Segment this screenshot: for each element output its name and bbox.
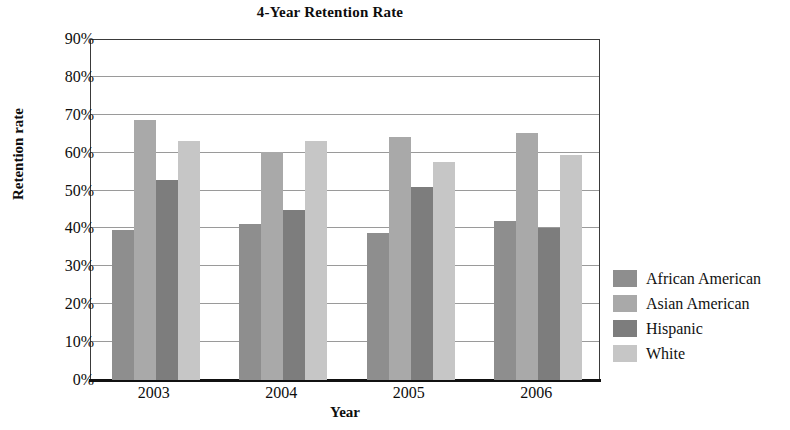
bar bbox=[178, 141, 200, 380]
bar bbox=[433, 162, 455, 380]
legend-item: African American bbox=[613, 266, 788, 291]
legend-swatch-icon bbox=[613, 320, 637, 337]
x-tick-label: 2004 bbox=[236, 384, 326, 402]
y-tick-label: 30% bbox=[24, 258, 94, 274]
bar bbox=[283, 210, 305, 380]
x-axis-title: Year bbox=[90, 404, 600, 421]
bar bbox=[156, 180, 178, 380]
chart-legend: African AmericanAsian AmericanHispanicWh… bbox=[613, 266, 788, 366]
legend-label: Asian American bbox=[646, 295, 750, 313]
bar bbox=[516, 133, 538, 380]
legend-label: African American bbox=[646, 270, 761, 288]
y-tick-label: 70% bbox=[24, 107, 94, 123]
bar bbox=[261, 152, 283, 380]
bar bbox=[389, 137, 411, 380]
bar bbox=[411, 187, 433, 380]
retention-rate-chart: 4-Year Retention Rate Retention rate 0%1… bbox=[0, 0, 790, 430]
legend-item: Hispanic bbox=[613, 316, 788, 341]
legend-item: White bbox=[613, 341, 788, 366]
chart-title: 4-Year Retention Rate bbox=[180, 4, 480, 21]
y-tick-label: 80% bbox=[24, 69, 94, 85]
y-tick-label: 10% bbox=[24, 334, 94, 350]
y-tick-label: 20% bbox=[24, 296, 94, 312]
legend-item: Asian American bbox=[613, 291, 788, 316]
x-tick-label: 2006 bbox=[491, 384, 581, 402]
bars-layer bbox=[90, 39, 600, 380]
bar bbox=[239, 224, 261, 380]
legend-swatch-icon bbox=[613, 295, 637, 312]
y-tick-label: 50% bbox=[24, 183, 94, 199]
x-tick-label: 2003 bbox=[109, 384, 199, 402]
y-tick-label: 40% bbox=[24, 220, 94, 236]
y-tick-label: 60% bbox=[24, 145, 94, 161]
bar bbox=[112, 230, 134, 380]
bar bbox=[305, 141, 327, 380]
legend-swatch-icon bbox=[613, 270, 637, 287]
legend-label: Hispanic bbox=[646, 320, 703, 338]
bar bbox=[538, 228, 560, 380]
bar bbox=[367, 233, 389, 380]
x-tick-label: 2005 bbox=[364, 384, 454, 402]
bar bbox=[134, 120, 156, 380]
y-tick-label: 0% bbox=[24, 372, 94, 388]
bar bbox=[560, 155, 582, 380]
legend-label: White bbox=[646, 345, 685, 363]
y-tick-label: 90% bbox=[24, 31, 94, 47]
legend-swatch-icon bbox=[613, 345, 637, 362]
bar bbox=[494, 221, 516, 380]
